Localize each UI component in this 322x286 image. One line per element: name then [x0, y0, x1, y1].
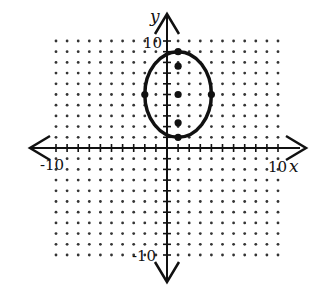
grid-dot: [110, 115, 113, 118]
grid-dot: [66, 211, 69, 214]
y-min-tick-label: -10: [132, 247, 156, 265]
grid-dot: [254, 50, 257, 53]
grid-dot: [55, 211, 58, 214]
grid-dot: [55, 222, 58, 225]
grid-dot: [121, 93, 124, 96]
grid-dot: [188, 82, 191, 85]
grid-dot: [132, 189, 135, 192]
grid-dot: [66, 61, 69, 64]
grid-dot: [232, 40, 235, 43]
grid-dot: [66, 232, 69, 235]
grid-dot: [77, 179, 80, 182]
grid-dot: [99, 40, 102, 43]
grid-dot: [143, 200, 146, 203]
grid-dot: [221, 40, 224, 43]
point-co-vertex: [208, 91, 215, 98]
grid-dot: [277, 61, 280, 64]
grid-dot: [254, 40, 257, 43]
grid-dot: [266, 82, 269, 85]
grid-dot: [99, 254, 102, 257]
grid-dot: [66, 125, 69, 128]
grid-dot: [132, 157, 135, 160]
grid-dot: [177, 232, 180, 235]
grid-dot: [88, 136, 91, 139]
grid-dot: [266, 40, 269, 43]
grid-dot: [221, 136, 224, 139]
grid-dot: [188, 93, 191, 96]
grid-dot: [132, 136, 135, 139]
grid-dot: [110, 136, 113, 139]
grid-dot: [199, 72, 202, 75]
grid-dot: [88, 50, 91, 53]
grid-dot: [55, 72, 58, 75]
grid-dot: [266, 222, 269, 225]
grid-dot: [88, 211, 91, 214]
grid-dot: [254, 157, 257, 160]
grid-dot: [55, 136, 58, 139]
grid-dot: [254, 115, 257, 118]
grid-dot: [221, 211, 224, 214]
grid-dot: [210, 125, 213, 128]
grid-dot: [55, 104, 58, 107]
grid-dot: [199, 211, 202, 214]
grid-dot: [266, 115, 269, 118]
grid-dot: [254, 93, 257, 96]
point-co-vertex: [141, 91, 148, 98]
grid-dot: [66, 72, 69, 75]
y-axis-label: y: [149, 6, 160, 26]
grid-dot: [88, 243, 91, 246]
grid-dot: [143, 72, 146, 75]
grid-dot: [221, 125, 224, 128]
grid-dot: [99, 115, 102, 118]
grid-dot: [99, 211, 102, 214]
grid-dot: [77, 189, 80, 192]
grid-dot: [110, 157, 113, 160]
grid-dot: [199, 254, 202, 257]
grid-dot: [143, 168, 146, 171]
grid-dot: [266, 136, 269, 139]
grid-dot: [243, 50, 246, 53]
grid-dot: [77, 254, 80, 257]
grid-dot: [221, 61, 224, 64]
grid-dot: [221, 104, 224, 107]
grid-dot: [66, 168, 69, 171]
x-axis-label: x: [289, 156, 299, 176]
grid-dot: [232, 168, 235, 171]
grid-dot: [121, 61, 124, 64]
grid-dot: [221, 50, 224, 53]
grid-dot: [221, 254, 224, 257]
grid-dot: [110, 211, 113, 214]
grid-dot: [132, 115, 135, 118]
grid-dot: [277, 211, 280, 214]
grid-dot: [254, 254, 257, 257]
grid-dot: [77, 211, 80, 214]
grid-dot: [88, 104, 91, 107]
grid-dot: [188, 189, 191, 192]
grid-dot: [177, 157, 180, 160]
grid-dot: [99, 222, 102, 225]
grid-dot: [177, 40, 180, 43]
grid-dot: [55, 93, 58, 96]
grid-dot: [177, 104, 180, 107]
grid-dot: [110, 200, 113, 203]
grid-dot: [221, 222, 224, 225]
grid-dot: [232, 211, 235, 214]
grid-dot: [277, 82, 280, 85]
grid-dot: [77, 125, 80, 128]
grid-dot: [243, 82, 246, 85]
grid-dot: [277, 232, 280, 235]
grid-dot: [66, 243, 69, 246]
grid-dot: [221, 93, 224, 96]
grid-dot: [132, 93, 135, 96]
grid-dot: [55, 61, 58, 64]
grid-dot: [110, 40, 113, 43]
grid-dot: [88, 93, 91, 96]
grid-dot: [266, 93, 269, 96]
grid-dot: [277, 115, 280, 118]
grid-dot: [121, 50, 124, 53]
grid-dot: [243, 189, 246, 192]
grid-dot: [55, 82, 58, 85]
grid-dot: [210, 189, 213, 192]
grid-dot: [88, 254, 91, 257]
grid-dot: [177, 168, 180, 171]
